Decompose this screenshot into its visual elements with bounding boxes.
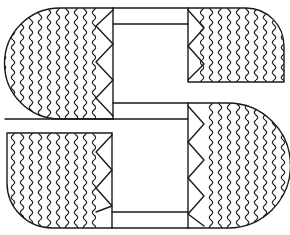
- top-left-rounded-end: [0, 0, 113, 130]
- s-shape-line-art: [0, 0, 290, 235]
- top-middle-panel: [113, 8, 188, 103]
- top-left-zigzag-border: [96, 8, 113, 119]
- bottom-left-rounded-end: [0, 125, 112, 235]
- bottom-left-zigzag-border: [96, 133, 112, 228]
- top-right-rounded-end: [188, 0, 290, 90]
- bottom-right-rounded-end: [188, 100, 290, 235]
